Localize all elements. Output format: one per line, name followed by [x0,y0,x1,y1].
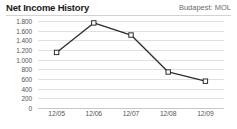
data-point-marker[interactable] [129,33,133,37]
data-point-marker[interactable] [166,70,170,74]
x-axis-tick-label: 12/07 [123,110,140,117]
x-axis-tick-label: 12/09 [197,110,214,117]
data-point-marker[interactable] [92,21,96,25]
data-point-marker[interactable] [54,50,58,54]
y-axis-tick-label: 800 [21,66,32,73]
y-axis-tick-label: 1.000 [16,56,32,63]
y-axis-tick-label: 1.800 [16,18,32,25]
line-series [38,21,224,108]
x-axis-tick-label: 12/05 [48,110,65,117]
header-divider [6,15,231,16]
y-axis-tick-label: 1.600 [16,27,32,34]
page-title: Net Income History [6,2,89,13]
y-axis-tick-label: 600 [21,76,32,83]
y-axis-tick-label: 1.200 [16,47,32,54]
x-axis-tick-label: 12/08 [160,110,177,117]
y-axis-tick-label: 1.400 [16,37,32,44]
data-point-marker[interactable] [203,79,207,83]
net-income-history-chart-widget: Net Income History Budapest: MOL 0200400… [0,0,237,129]
x-axis: 12/0512/0612/0712/0812/09 [38,110,224,124]
x-axis-tick-label: 12/06 [86,110,103,117]
gridline [38,108,224,109]
y-axis-tick-label: 400 [21,85,32,92]
y-axis: 02004006008001.0001.2001.4001.6001.800 [0,21,36,111]
exchange-ticker-label: Budapest: MOL [179,3,231,12]
chart-header: Net Income History Budapest: MOL [0,0,237,17]
series-line [57,23,206,81]
y-axis-tick-label: 0 [28,105,32,112]
y-axis-tick-label: 200 [21,95,32,102]
